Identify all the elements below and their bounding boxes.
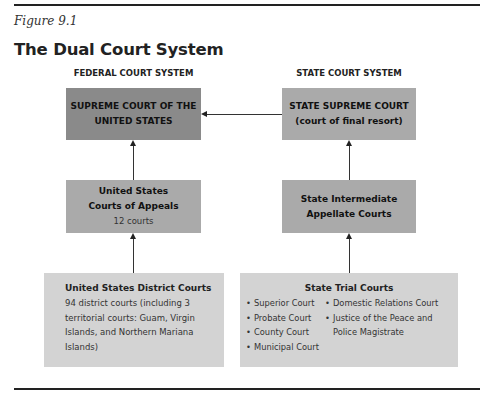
district-to-appeals-connector <box>133 239 134 273</box>
state-intermediate-appellate-box: State Intermediate Appellate Courts <box>282 180 416 233</box>
intermediate-line2: Appellate Courts <box>306 207 391 222</box>
state-supreme-court-box: STATE SUPREME COURT (court of final reso… <box>282 88 416 140</box>
appeals-count: 12 courts <box>113 214 153 229</box>
us-district-courts-box: United States District Courts 94 distric… <box>44 273 224 367</box>
list-item: •Municipal Court <box>246 340 319 355</box>
intermediate-to-state-supreme-connector <box>349 146 350 180</box>
top-rule <box>14 4 480 6</box>
bullet-icon: • <box>325 296 330 311</box>
bullet-icon: • <box>325 311 330 326</box>
appeals-line2: Courts of Appeals <box>88 199 178 214</box>
bottom-rule <box>14 388 480 390</box>
trial-title: State Trial Courts <box>240 281 458 296</box>
trial-list-col1: •Superior Court •Probate Court •County C… <box>246 296 319 354</box>
arrow-up-icon <box>130 140 136 146</box>
list-item: •Justice of the Peace and Police Magistr… <box>325 311 451 340</box>
intermediate-line1: State Intermediate <box>301 192 398 207</box>
figure-label: Figure 9.1 <box>14 14 77 28</box>
list-item: •County Court <box>246 325 319 340</box>
appeals-line1: United States <box>99 184 168 199</box>
trial-to-intermediate-connector <box>349 239 350 273</box>
us-supreme-court-line2: UNITED STATES <box>94 114 172 129</box>
district-description: 94 district courts (including 3 territor… <box>65 296 214 354</box>
list-item: •Probate Court <box>246 311 319 326</box>
federal-heading: FEDERAL COURT SYSTEM <box>66 68 201 78</box>
bullet-icon: • <box>246 296 251 311</box>
arrow-up-icon <box>346 140 352 146</box>
figure-title: The Dual Court System <box>14 40 223 59</box>
list-item: •Domestic Relations Court <box>325 296 451 311</box>
arrow-up-icon <box>346 233 352 239</box>
district-title: United States District Courts <box>65 281 214 296</box>
us-courts-of-appeals-box: United States Courts of Appeals 12 court… <box>66 180 201 233</box>
appeals-to-supreme-connector <box>133 146 134 180</box>
list-item: •Superior Court <box>246 296 319 311</box>
state-to-federal-connector <box>207 114 282 115</box>
us-supreme-court-line1: SUPREME COURT OF THE <box>71 99 197 114</box>
bullet-icon: • <box>246 325 251 340</box>
state-trial-courts-box: State Trial Courts •Superior Court •Prob… <box>240 273 458 367</box>
arrow-up-icon <box>130 233 136 239</box>
us-supreme-court-box: SUPREME COURT OF THE UNITED STATES <box>66 88 201 140</box>
bullet-icon: • <box>246 311 251 326</box>
arrow-left-icon <box>201 111 207 117</box>
trial-list-col2: •Domestic Relations Court •Justice of th… <box>325 296 451 354</box>
state-supreme-court-line1: STATE SUPREME COURT <box>289 99 409 114</box>
state-heading: STATE COURT SYSTEM <box>282 68 416 78</box>
bullet-icon: • <box>246 340 251 355</box>
state-supreme-court-line2: (court of final resort) <box>295 114 402 129</box>
